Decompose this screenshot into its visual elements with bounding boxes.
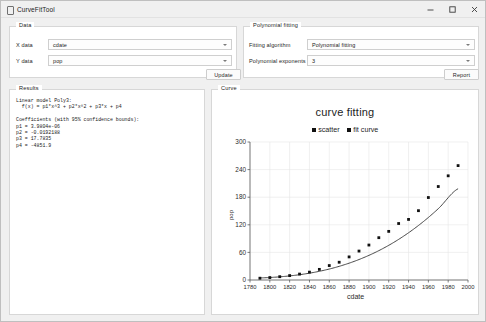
y-data-row: Y data pop: [16, 55, 232, 66]
x-data-row: X data cdate: [16, 39, 232, 50]
fitting-panel-title: Polynomial fitting: [250, 22, 301, 28]
svg-text:1900: 1900: [362, 284, 375, 290]
svg-text:180: 180: [235, 193, 246, 200]
svg-text:60: 60: [239, 249, 247, 256]
x-axis-label: cdate: [347, 293, 364, 300]
svg-text:1960: 1960: [422, 284, 435, 290]
x-data-value: cdate: [53, 42, 67, 48]
chevron-down-icon: [466, 60, 470, 62]
y-data-select[interactable]: pop: [48, 55, 232, 66]
report-button[interactable]: Report: [444, 69, 479, 80]
maximize-icon: [448, 5, 457, 14]
close-button[interactable]: [463, 1, 485, 18]
svg-text:1820: 1820: [283, 284, 296, 290]
close-icon: [470, 5, 479, 14]
plot-wrapper: 0601201802403001780180018201840186018801…: [216, 94, 474, 310]
minimize-icon: [426, 5, 435, 14]
curve-panel-title: Curve: [218, 85, 240, 91]
results-panel: Results Linear model Poly3: f(x) = p1*x^…: [9, 89, 205, 315]
window-title: CurveFitTool: [17, 6, 55, 13]
x-data-select[interactable]: cdate: [48, 39, 232, 50]
svg-text:300: 300: [235, 138, 246, 145]
svg-text:1940: 1940: [402, 284, 415, 290]
y-data-label: Y data: [16, 58, 48, 64]
x-data-label: X data: [16, 42, 48, 48]
curve-fitting-plot: 0601201802403001780180018201840186018801…: [216, 94, 476, 312]
results-text: Linear model Poly3: f(x) = p1*x^3 + p2*x…: [16, 98, 139, 149]
results-panel-title: Results: [16, 85, 42, 91]
exponents-value: 3: [312, 58, 315, 64]
title-bar: CurveFitTool: [1, 1, 485, 18]
window-controls: [419, 1, 485, 18]
svg-text:2000: 2000: [462, 284, 475, 290]
algorithm-label: Fitting algorithm: [249, 42, 307, 48]
algorithm-value: Polynomial fitting: [312, 42, 355, 48]
exponents-select[interactable]: 3: [307, 55, 475, 66]
algorithm-row: Fitting algorithm Polynomial fitting: [249, 39, 475, 50]
maximize-button[interactable]: [441, 1, 463, 18]
algorithm-select[interactable]: Polynomial fitting: [307, 39, 475, 50]
chevron-down-icon: [223, 44, 227, 46]
svg-text:1860: 1860: [323, 284, 336, 290]
svg-text:1780: 1780: [244, 284, 257, 290]
exponents-label: Polynomial exponents: [249, 58, 307, 64]
svg-text:1980: 1980: [442, 284, 455, 290]
y-data-value: pop: [53, 58, 62, 64]
data-panel: Data X data cdate Y data pop: [9, 26, 237, 78]
svg-text:1800: 1800: [263, 284, 276, 290]
svg-text:1840: 1840: [303, 284, 316, 290]
chevron-down-icon: [223, 60, 227, 62]
curve-panel: Curve curve fitting scatter fit curve 06…: [211, 89, 479, 315]
update-button[interactable]: Update: [206, 69, 241, 80]
svg-text:1880: 1880: [343, 284, 356, 290]
y-axis-label: pop: [228, 210, 234, 220]
minimize-button[interactable]: [419, 1, 441, 18]
svg-text:240: 240: [235, 166, 246, 173]
app-window: CurveFitTool Data X dat: [0, 0, 486, 322]
chart-area: curve fitting scatter fit curve 06012018…: [216, 94, 474, 310]
svg-text:1920: 1920: [382, 284, 395, 290]
chevron-down-icon: [466, 44, 470, 46]
app-icon: [5, 5, 14, 14]
exponents-row: Polynomial exponents 3: [249, 55, 475, 66]
data-panel-title: Data: [16, 22, 34, 28]
svg-text:120: 120: [235, 221, 246, 228]
svg-text:0: 0: [242, 276, 246, 283]
